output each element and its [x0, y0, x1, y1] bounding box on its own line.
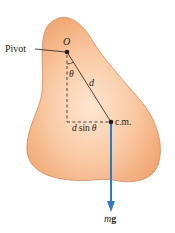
weight-g: g: [111, 213, 116, 224]
center-of-mass-label: c.m.: [115, 117, 131, 127]
lever-arm-sin: sin: [79, 123, 90, 133]
weight-m: m: [104, 213, 111, 224]
weight-force-arrowhead: [107, 201, 115, 212]
lever-arm-label: dsinθ: [72, 123, 97, 133]
pivot-point: [65, 50, 70, 55]
pivot-label: Pivot: [5, 43, 26, 54]
physical-pendulum-diagram: Pivot O θ d c.m. dsinθ mg: [0, 0, 175, 233]
rigid-body: [27, 17, 160, 182]
lever-arm-theta: θ: [92, 123, 97, 133]
lever-arm-d: d: [72, 123, 77, 133]
origin-label: O: [63, 36, 70, 47]
weight-force-label: mg: [104, 213, 116, 224]
center-of-mass-point: [109, 120, 114, 125]
angle-label: θ: [69, 69, 74, 79]
